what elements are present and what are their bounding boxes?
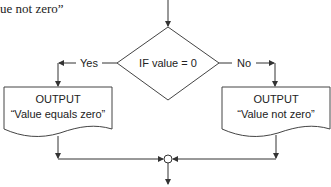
yes-label: Yes <box>80 57 98 69</box>
output-yes-text: “Value equals zero” <box>11 108 106 120</box>
output-yes-title: OUTPUT <box>35 93 81 105</box>
output-no-title: OUTPUT <box>253 93 299 105</box>
yes-branch: Yes <box>58 57 117 86</box>
flowchart: IF value = 0 Yes No OUTPUT “Value equals… <box>0 0 331 187</box>
no-label: No <box>237 57 251 69</box>
output-box-yes: OUTPUT “Value equals zero” <box>4 87 112 136</box>
merge-connectors <box>58 135 276 184</box>
merge-connector-circle <box>164 155 172 163</box>
no-branch: No <box>219 57 275 86</box>
decision-diamond: IF value = 0 <box>117 27 219 100</box>
output-box-no: OUTPUT “Value not zero” <box>222 87 330 136</box>
decision-label: IF value = 0 <box>139 57 197 69</box>
output-no-text: “Value not zero” <box>237 108 315 120</box>
